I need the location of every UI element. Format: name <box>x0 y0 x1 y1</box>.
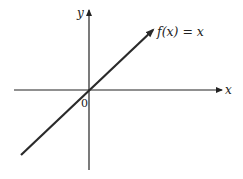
function-line <box>21 30 153 155</box>
x-axis-label: x <box>225 84 232 96</box>
function-label: f(x) = x <box>157 26 204 39</box>
y-axis-label: y <box>77 7 84 19</box>
graph-canvas <box>0 0 243 179</box>
origin-label: 0 <box>81 98 88 109</box>
